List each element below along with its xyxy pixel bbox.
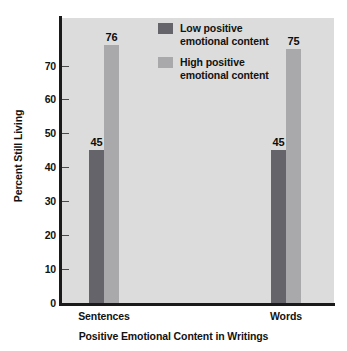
legend-swatch-low (158, 23, 173, 34)
y-tick-label-wrap: 20 (34, 229, 56, 241)
bar-words-high (286, 49, 301, 303)
y-tick-label-wrap: 30 (34, 195, 56, 207)
x-axis-title: Positive Emotional Content in Writings (0, 330, 347, 342)
y-tick-label-wrap: 10 (34, 263, 56, 275)
category-label-words: Words (241, 310, 331, 322)
y-tick-30 (62, 201, 69, 202)
legend-item-low: Low positive emotional content (158, 22, 269, 47)
y-tick-label: 60 (34, 93, 56, 105)
category-label-sentences: Sentences (59, 310, 149, 322)
y-tick-label-wrap: 60 (34, 93, 56, 105)
y-tick-label: 30 (34, 195, 56, 207)
y-axis-line (59, 16, 62, 305)
y-tick-label-wrap: 40 (34, 161, 56, 173)
x-axis-line (59, 303, 335, 306)
legend-label: Low positive emotional content (180, 22, 269, 47)
legend-label: High positive emotional content (180, 56, 269, 81)
legend-item-high: High positive emotional content (158, 56, 269, 81)
y-tick-label-wrap: 50 (34, 127, 56, 139)
bar-sentences-low (89, 150, 104, 303)
y-tick-10 (62, 269, 69, 270)
legend-swatch-high (158, 57, 173, 68)
y-tick-50 (62, 133, 69, 134)
y-tick-70 (62, 66, 69, 67)
bar-words-low (271, 150, 286, 303)
y-tick-label: 20 (34, 229, 56, 241)
y-tick-label-wrap: 70 (34, 60, 56, 72)
bar-value-label: 76 (97, 31, 127, 43)
bar-value-label: 75 (279, 35, 309, 47)
y-tick-label: 0 (34, 297, 56, 309)
y-tick-label: 10 (34, 263, 56, 275)
y-tick-40 (62, 167, 69, 168)
y-axis-title: Percent Still Living (12, 101, 24, 211)
legend: Low positive emotional contentHigh posit… (158, 22, 269, 90)
y-tick-20 (62, 235, 69, 236)
y-tick-60 (62, 99, 69, 100)
y-tick-label: 50 (34, 127, 56, 139)
y-tick-label: 40 (34, 161, 56, 173)
bar-chart: 010203040506070 45764575 SentencesWords … (0, 0, 347, 351)
bar-sentences-high (104, 45, 119, 303)
y-tick-label-wrap: 0 (34, 297, 56, 309)
y-tick-label: 70 (34, 60, 56, 72)
